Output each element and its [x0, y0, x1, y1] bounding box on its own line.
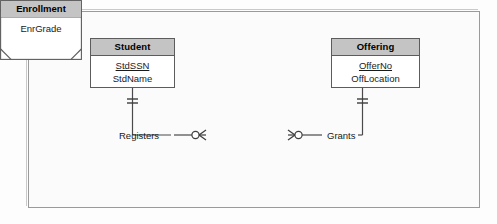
cardinality-zero-circle-right [295, 131, 302, 138]
entity-student-attributes: StdSSN StdName [91, 56, 174, 85]
entity-enrollment-attributes: EnrGrade [1, 18, 81, 36]
entity-enrollment[interactable]: Enrollment EnrGrade [0, 0, 82, 60]
connector-student-registers [127, 88, 138, 135]
erd-page: Student StdSSN StdName Offering OfferNo … [0, 0, 497, 224]
cardinality-zero-circle-left [192, 131, 199, 138]
entity-offering-title: Offering [332, 39, 419, 56]
entity-student-title: Student [91, 39, 174, 56]
relationship-label-registers: Registers [119, 130, 159, 141]
entity-enrollment-title: Enrollment [1, 1, 81, 17]
relationship-label-grants: Grants [327, 130, 356, 141]
entity-student[interactable]: Student StdSSN StdName [90, 38, 175, 88]
attribute-offerno: OfferNo [332, 60, 419, 73]
crows-foot-left [199, 130, 206, 140]
attribute-stdname: StdName [91, 73, 174, 86]
attribute-stdssn: StdSSN [91, 60, 174, 73]
entity-offering-attributes: OfferNo OffLocation [332, 56, 419, 85]
entity-offering[interactable]: Offering OfferNo OffLocation [331, 38, 420, 88]
attribute-enrgrade: EnrGrade [1, 23, 81, 36]
attribute-offlocation: OffLocation [332, 73, 419, 86]
crows-foot-right [288, 130, 295, 140]
connector-offering-grants [357, 88, 368, 135]
